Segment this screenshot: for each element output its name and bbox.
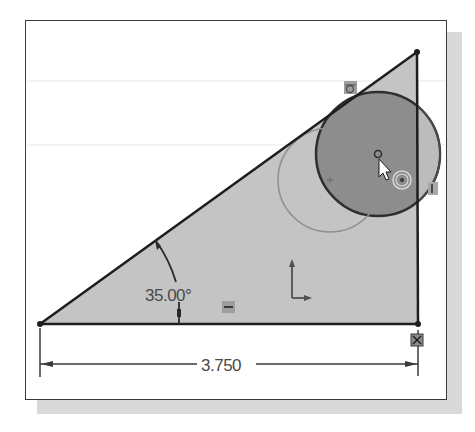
sketch-canvas[interactable]: 35.00° 3.750 — [0, 0, 475, 432]
dimension-arrowhead-left — [41, 361, 53, 367]
fixed-relation-icon[interactable] — [411, 334, 423, 346]
vertical-line[interactable] — [417, 52, 418, 324]
dimension-arrowhead-right — [405, 361, 417, 367]
vertex-bottom-left[interactable] — [37, 321, 43, 327]
horizontal-relation-icon[interactable] — [222, 301, 235, 313]
concentric-snap-icon — [393, 171, 411, 189]
angle-arrowhead — [177, 309, 181, 317]
angle-dimension-label[interactable]: 35.00° — [145, 286, 191, 305]
vertex-top-right[interactable] — [414, 49, 420, 55]
linear-dimension-label[interactable]: 3.750 — [201, 356, 241, 375]
tangent-relation-icon[interactable] — [344, 81, 357, 94]
vertex-bottom-right[interactable] — [415, 321, 421, 327]
circle-center-point[interactable] — [375, 151, 382, 158]
vertical-relation-icon[interactable] — [428, 182, 438, 195]
